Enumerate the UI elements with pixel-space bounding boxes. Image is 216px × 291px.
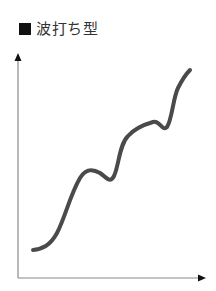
x-axis-arrow-icon [198, 275, 206, 282]
wave-trend-diagram [0, 0, 216, 291]
wave-curve [33, 70, 190, 250]
y-axis-arrow-icon [15, 53, 22, 61]
